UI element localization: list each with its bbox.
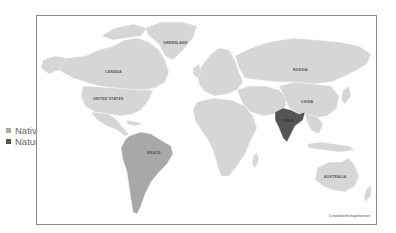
map-credit: Created with mapchart.net	[329, 214, 370, 218]
label-canada: CANADA	[105, 70, 122, 74]
label-brazil: BRAZIL	[147, 151, 162, 155]
region-russia[interactable]	[235, 38, 371, 84]
world-map-svg: GREENLAND CANADA UNITED STATES RUSSIA CH…	[37, 16, 377, 225]
legend-swatch-naturalised	[6, 139, 11, 144]
label-united-states: UNITED STATES	[93, 97, 124, 101]
region-africa[interactable]	[193, 98, 257, 176]
region-united-states[interactable]	[81, 86, 153, 116]
region-south-america[interactable]	[121, 132, 173, 214]
region-caribbean[interactable]	[127, 120, 143, 126]
label-china: CHINA	[301, 100, 314, 104]
region-arctic-islands[interactable]	[101, 24, 147, 40]
world-map[interactable]: GREENLAND CANADA UNITED STATES RUSSIA CH…	[36, 15, 377, 225]
legend-swatch-native	[6, 128, 11, 133]
label-russia: RUSSIA	[293, 68, 308, 72]
label-greenland: GREENLAND	[163, 41, 188, 45]
region-indonesia[interactable]	[307, 142, 355, 152]
region-canada[interactable]	[55, 38, 169, 90]
region-madagascar[interactable]	[252, 152, 259, 168]
region-europe[interactable]	[197, 48, 243, 96]
region-japan[interactable]	[341, 86, 351, 104]
map-title	[130, 1, 260, 11]
label-australia: AUSTRALIA	[324, 175, 347, 179]
region-new-zealand[interactable]	[364, 186, 371, 202]
label-india: INDIA	[283, 119, 294, 123]
